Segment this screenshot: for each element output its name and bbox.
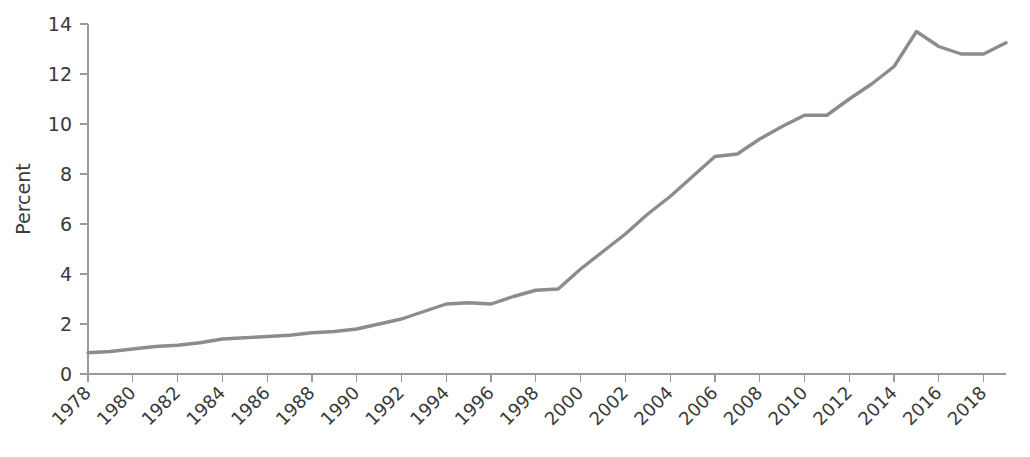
x-tick-label: 1980	[92, 382, 139, 429]
x-tick-label: 2014	[854, 382, 901, 429]
x-tick-label: 2008	[719, 382, 766, 429]
x-tick-label: 2004	[630, 382, 677, 429]
x-tick-label: 2000	[540, 382, 587, 429]
y-tick-label: 8	[60, 163, 72, 185]
y-tick-label: 6	[60, 213, 72, 235]
x-tick-label: 1988	[271, 382, 318, 429]
x-tick-label: 2006	[675, 382, 722, 429]
y-axis-title: Percent	[12, 163, 34, 235]
x-tick-label: 1994	[406, 382, 453, 429]
x-tick-label: 1986	[227, 382, 274, 429]
x-axis: 1978198019821984198619881990199219941996…	[48, 374, 1006, 429]
series-line-percent	[88, 32, 1006, 353]
y-tick-label: 14	[48, 13, 72, 35]
x-tick-label: 2016	[898, 382, 945, 429]
x-tick-label: 2010	[764, 382, 811, 429]
y-tick-label: 2	[60, 313, 72, 335]
y-tick-label: 12	[48, 63, 72, 85]
x-tick-label: 1998	[495, 382, 542, 429]
x-tick-label: 1996	[451, 382, 498, 429]
x-tick-label: 1990	[316, 382, 363, 429]
chart-canvas: 02468101214 1978198019821984198619881990…	[0, 0, 1030, 457]
y-axis-label: Percent	[12, 163, 34, 235]
x-tick-label: 1984	[182, 382, 229, 429]
x-tick-label: 1978	[48, 382, 95, 429]
y-tick-label: 0	[60, 363, 72, 385]
y-tick-label: 10	[48, 113, 72, 135]
x-tick-label: 1992	[361, 382, 408, 429]
x-tick-label: 2018	[943, 382, 990, 429]
line-chart: 02468101214 1978198019821984198619881990…	[0, 0, 1030, 457]
y-axis: 02468101214	[48, 13, 88, 385]
data-series	[88, 32, 1006, 353]
y-tick-label: 4	[60, 263, 72, 285]
x-tick-label: 2012	[809, 382, 856, 429]
x-tick-label: 2002	[585, 382, 632, 429]
x-tick-label: 1982	[137, 382, 184, 429]
